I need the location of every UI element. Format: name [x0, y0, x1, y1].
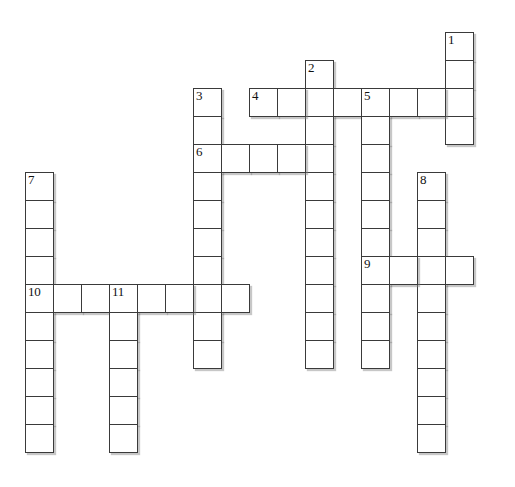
crossword-cell[interactable] [193, 284, 222, 313]
crossword-cell[interactable] [417, 368, 446, 397]
clue-number-6: 6 [196, 144, 202, 159]
crossword-cell[interactable] [361, 312, 390, 341]
crossword-cell[interactable] [193, 340, 222, 369]
clue-number-8: 8 [420, 172, 426, 187]
crossword-cell[interactable] [53, 284, 82, 313]
crossword-cell[interactable] [221, 284, 250, 313]
crossword-cell-start-5[interactable]: 5 [361, 88, 390, 117]
crossword-cell[interactable] [109, 368, 138, 397]
crossword-cell[interactable] [445, 116, 474, 145]
crossword-cell[interactable] [193, 200, 222, 229]
crossword-cell-start-2[interactable]: 2 [305, 60, 334, 89]
crossword-cell-start-6[interactable]: 6 [193, 144, 222, 173]
crossword-cell[interactable] [333, 88, 362, 117]
crossword-cell[interactable] [277, 144, 306, 173]
crossword-cell[interactable] [193, 172, 222, 201]
crossword-cell[interactable] [361, 172, 390, 201]
crossword-cell[interactable] [305, 284, 334, 313]
crossword-cell[interactable] [305, 88, 334, 117]
clue-number-4: 4 [252, 88, 258, 103]
crossword-cell[interactable] [25, 312, 54, 341]
clue-number-1: 1 [448, 32, 454, 47]
crossword-cell[interactable] [193, 256, 222, 285]
crossword-cell[interactable] [109, 340, 138, 369]
crossword-cell[interactable] [417, 228, 446, 257]
crossword-cell[interactable] [221, 144, 250, 173]
crossword-cell[interactable] [417, 340, 446, 369]
crossword-cell-start-1[interactable]: 1 [445, 32, 474, 61]
crossword-cell[interactable] [25, 424, 54, 453]
crossword-cell[interactable] [361, 116, 390, 145]
crossword-cell[interactable] [193, 116, 222, 145]
crossword-cell[interactable] [445, 256, 474, 285]
crossword-cell[interactable] [193, 228, 222, 257]
crossword-cell[interactable] [25, 396, 54, 425]
crossword-cell[interactable] [81, 284, 110, 313]
crossword-cell[interactable] [305, 172, 334, 201]
crossword-cell-start-8[interactable]: 8 [417, 172, 446, 201]
crossword-cell[interactable] [417, 200, 446, 229]
crossword-cell[interactable] [417, 424, 446, 453]
crossword-cell-start-9[interactable]: 9 [361, 256, 390, 285]
crossword-cell[interactable] [25, 200, 54, 229]
crossword-cell-start-10[interactable]: 10 [25, 284, 54, 313]
crossword-cell[interactable] [361, 228, 390, 257]
crossword-cell[interactable] [109, 396, 138, 425]
crossword-cell[interactable] [277, 88, 306, 117]
crossword-cell-start-11[interactable]: 11 [109, 284, 138, 313]
clue-number-2: 2 [308, 60, 314, 75]
clue-number-7: 7 [28, 172, 34, 187]
crossword-cell[interactable] [165, 284, 194, 313]
crossword-cell[interactable] [137, 284, 166, 313]
clue-number-5: 5 [364, 88, 370, 103]
crossword-cell-start-7[interactable]: 7 [25, 172, 54, 201]
crossword-cell[interactable] [305, 256, 334, 285]
crossword-cell[interactable] [417, 312, 446, 341]
crossword-cell[interactable] [417, 88, 446, 117]
crossword-cell[interactable] [249, 144, 278, 173]
crossword-cell[interactable] [109, 312, 138, 341]
crossword-cell[interactable] [25, 228, 54, 257]
crossword-cell[interactable] [305, 116, 334, 145]
crossword-cell[interactable] [417, 256, 446, 285]
crossword-cell[interactable] [25, 340, 54, 369]
crossword-cell[interactable] [389, 256, 418, 285]
crossword-cell[interactable] [305, 144, 334, 173]
crossword-cell[interactable] [361, 144, 390, 173]
crossword-cell[interactable] [193, 312, 222, 341]
crossword-cell[interactable] [361, 340, 390, 369]
crossword-cell[interactable] [445, 88, 474, 117]
crossword-cell[interactable] [305, 200, 334, 229]
crossword-cell[interactable] [361, 200, 390, 229]
clue-number-9: 9 [364, 256, 370, 271]
crossword-cell[interactable] [109, 424, 138, 453]
clue-number-11: 11 [112, 284, 124, 299]
crossword-cell-start-4[interactable]: 4 [249, 88, 278, 117]
crossword-cell[interactable] [389, 88, 418, 117]
crossword-cell[interactable] [25, 368, 54, 397]
crossword-cell[interactable] [25, 256, 54, 285]
crossword-cell[interactable] [445, 60, 474, 89]
crossword-cell[interactable] [305, 228, 334, 257]
crossword-cell[interactable] [305, 340, 334, 369]
clue-number-3: 3 [196, 88, 202, 103]
crossword-cell[interactable] [417, 284, 446, 313]
crossword-cell[interactable] [417, 396, 446, 425]
crossword-cell-start-3[interactable]: 3 [193, 88, 222, 117]
crossword-cell[interactable] [305, 312, 334, 341]
crossword-puzzle: 1236459710811 [0, 0, 515, 487]
clue-number-10: 10 [28, 284, 40, 299]
crossword-cell[interactable] [361, 284, 390, 313]
